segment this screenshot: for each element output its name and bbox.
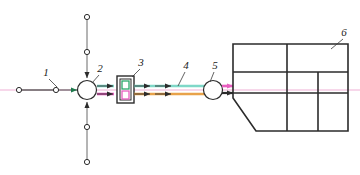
label-4: 4	[183, 59, 189, 71]
terminal-circle-bottom-far	[84, 159, 89, 164]
label-3: 3	[137, 56, 144, 68]
terminal-circle-left-inner	[53, 87, 58, 92]
terminal-circle-left-outer	[16, 87, 21, 92]
leader-lines	[49, 39, 343, 87]
pump-circle	[204, 81, 223, 100]
schematic-svg: 1 2 3 4 5 6	[0, 0, 360, 175]
vessel-outline	[233, 44, 348, 131]
label-2: 2	[97, 62, 103, 74]
terminal-circle-bottom-near	[84, 124, 89, 129]
terminal-circle-top-near	[84, 49, 89, 54]
filter-box	[117, 76, 134, 103]
diagram-canvas: 1 2 3 4 5 6	[0, 0, 360, 175]
mixer-circle	[78, 81, 97, 100]
label-1: 1	[43, 66, 49, 78]
terminal-circle-top-far	[84, 14, 89, 19]
label-5: 5	[212, 59, 218, 71]
label-6: 6	[341, 26, 347, 38]
